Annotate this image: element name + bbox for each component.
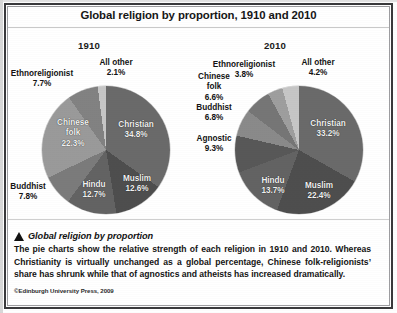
pie-label-value: 2.1% <box>107 68 126 77</box>
pie-label-text: All other <box>301 58 334 67</box>
pie-label-2010-muslim: Muslim 22.4% <box>296 181 342 202</box>
caption-divider <box>8 219 389 220</box>
pie-label-text: Hindu <box>261 176 284 185</box>
figure-title: Global religion by proportion, 1910 and … <box>10 9 387 21</box>
pie-label-value: 6.6% <box>205 93 224 102</box>
pie-label-text: Ethnoreligionist <box>213 60 275 69</box>
pie-label-1910-all-other: All other 2.1% <box>88 58 144 79</box>
pie-label-text: Buddhist <box>196 103 231 112</box>
pie-label-1910-ethnoreligionist: Ethnoreligionist 7.7% <box>4 69 80 90</box>
pie-label-value: 34.8% <box>124 130 147 139</box>
pie-label-value: 22.4% <box>307 191 330 200</box>
chart-year-label-1910: 1910 <box>78 40 100 51</box>
pie-label-1910-muslim: Muslim 12.6% <box>114 174 160 195</box>
pie-label-2010-agnostic: Agnostic 9.3% <box>190 134 238 155</box>
caption-heading: Global religion by proportion <box>28 231 153 241</box>
pie-label-text-2: folk <box>66 128 81 137</box>
caption-block: Global religion by proportion The pie ch… <box>14 231 380 294</box>
pie-label-text: Christian <box>310 119 346 128</box>
pie-label-value: 22.3% <box>61 139 84 148</box>
pie-label-value: 33.2% <box>316 129 339 138</box>
title-divider <box>8 27 389 28</box>
triangle-marker-icon <box>14 232 24 241</box>
pie-label-1910-hindu: Hindu 12.7% <box>72 180 116 201</box>
pie-label-text-2: folk <box>207 82 222 91</box>
pie-label-value: 12.7% <box>82 190 105 199</box>
pie-label-1910-buddhist: Buddhist 7.8% <box>4 182 52 203</box>
pie-label-text: Christian <box>118 120 154 129</box>
caption-copyright: ©Edinburgh University Press, 2009 <box>14 287 380 294</box>
pie-label-value: 7.8% <box>19 192 38 201</box>
pie-label-1910-christian: Christian 34.8% <box>108 120 164 141</box>
pie-label-value: 7.7% <box>33 79 52 88</box>
pie-label-text: Chinese <box>198 72 230 81</box>
pie-label-text: Agnostic <box>196 134 231 143</box>
pie-label-2010-chinese-folk: Chinese folk 6.6% <box>190 72 238 103</box>
pie-label-value: 9.3% <box>205 144 224 153</box>
pie-label-value: 12.6% <box>125 184 148 193</box>
pie-label-2010-christian: Christian 33.2% <box>300 119 356 140</box>
pie-label-1910-chinese-folk: Chinese folk 22.3% <box>48 118 98 149</box>
chart-year-label-2010: 2010 <box>264 40 286 51</box>
pie-label-text: Hindu <box>82 180 105 189</box>
figure-page: Global religion by proportion, 1910 and … <box>0 0 397 313</box>
page-edge-top <box>0 0 397 2</box>
pie-label-2010-hindu: Hindu 13.7% <box>252 176 294 197</box>
pie-label-value: 13.7% <box>261 186 284 195</box>
page-edge-left <box>0 0 3 313</box>
pie-label-text: Muslim <box>305 181 333 190</box>
pie-label-2010-all-other: All other 4.2% <box>290 58 346 79</box>
pie-label-text: Muslim <box>123 174 151 183</box>
pie-label-text: Ethnoreligionist <box>11 69 73 78</box>
pie-label-text: Chinese <box>57 118 89 127</box>
pie-label-value: 6.8% <box>205 113 224 122</box>
caption-heading-row: Global religion by proportion <box>14 231 380 241</box>
pie-label-2010-buddhist: Buddhist 6.8% <box>190 103 238 124</box>
pie-label-text: All other <box>99 58 132 67</box>
pie-label-text: Buddhist <box>10 182 45 191</box>
pie-label-value: 4.2% <box>309 68 328 77</box>
caption-body: The pie charts show the relative strengt… <box>14 243 371 281</box>
